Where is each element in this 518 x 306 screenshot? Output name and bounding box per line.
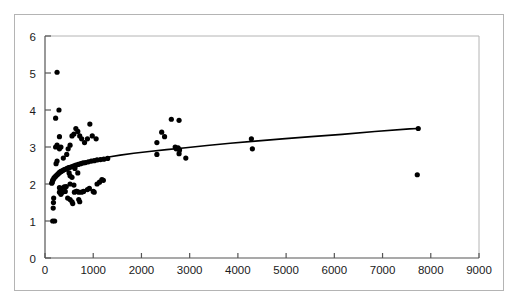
x-tick-label: 5000: [273, 264, 299, 276]
x-tick-label: 9000: [466, 264, 492, 276]
scatter-plot: 0100020003000400050006000700080009000 01…: [0, 0, 518, 306]
scatter-point: [52, 218, 57, 223]
scatter-point: [416, 126, 421, 131]
scatter-point: [169, 117, 174, 122]
scatter-point: [75, 170, 80, 175]
axis-lines: [45, 36, 479, 258]
y-tick-label: 1: [30, 216, 36, 228]
x-tick-label: 1000: [80, 264, 106, 276]
y-tick-label: 0: [30, 253, 36, 265]
y-tick-label: 6: [30, 31, 36, 43]
scatter-point: [64, 152, 69, 157]
scatter-point: [51, 200, 56, 205]
scatter-point: [70, 201, 75, 206]
scatter-point: [56, 107, 61, 112]
scatter-point: [159, 130, 164, 135]
y-tick-label: 2: [30, 179, 36, 191]
fitted-curve: [52, 129, 418, 184]
scatter-point: [71, 183, 76, 188]
scatter-points: [49, 70, 421, 224]
scatter-point: [51, 205, 56, 210]
scatter-point: [176, 151, 181, 156]
scatter-point: [54, 158, 59, 163]
y-tick-label: 5: [30, 68, 36, 80]
scatter-point: [249, 136, 254, 141]
x-axis-tick-labels: 0100020003000400050006000700080009000: [42, 264, 492, 276]
scatter-point: [173, 144, 178, 149]
scatter-point: [94, 136, 99, 141]
scatter-point: [58, 144, 63, 149]
scatter-point: [57, 134, 62, 139]
x-tick-label: 8000: [418, 264, 444, 276]
scatter-point: [69, 175, 74, 180]
x-tick-label: 3000: [177, 264, 203, 276]
y-tick-label: 4: [30, 105, 37, 117]
scatter-point: [76, 190, 81, 195]
scatter-point: [51, 195, 56, 200]
plot-area-border: [45, 36, 479, 258]
fitted-curve-path: [52, 129, 418, 184]
scatter-point: [77, 199, 82, 204]
figure-container: 0100020003000400050006000700080009000 01…: [0, 0, 518, 306]
x-tick-label: 6000: [322, 264, 348, 276]
x-tick-label: 4000: [225, 264, 251, 276]
y-axis-ticks: [45, 36, 51, 258]
scatter-point: [162, 134, 167, 139]
scatter-point: [154, 152, 159, 157]
scatter-point: [183, 156, 188, 161]
scatter-point: [154, 140, 159, 145]
scatter-point: [250, 146, 255, 151]
scatter-point: [176, 118, 181, 123]
scatter-point: [105, 156, 110, 161]
scatter-point: [53, 116, 58, 121]
scatter-point: [87, 121, 92, 126]
x-tick-label: 0: [42, 264, 48, 276]
scatter-point: [92, 190, 97, 195]
y-tick-label: 3: [30, 142, 36, 154]
scatter-point: [75, 129, 80, 134]
y-axis-tick-labels: 0123456: [30, 31, 37, 265]
scatter-point: [54, 70, 59, 75]
scatter-point: [101, 178, 106, 183]
x-axis-ticks: [45, 253, 479, 258]
x-tick-label: 7000: [370, 264, 396, 276]
x-tick-label: 2000: [129, 264, 155, 276]
scatter-point: [67, 143, 72, 148]
scatter-point: [415, 172, 420, 177]
scatter-point: [85, 136, 90, 141]
scatter-point: [72, 166, 77, 171]
